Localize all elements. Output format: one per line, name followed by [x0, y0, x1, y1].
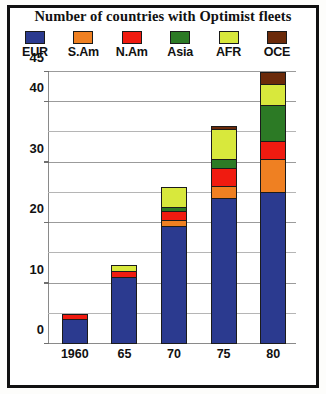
legend-item-afr[interactable]: AFR	[206, 31, 252, 59]
legend-swatch-icon	[73, 31, 93, 44]
plot-area: 01020304045 196065707580	[12, 68, 300, 368]
bar-segment-eur	[63, 320, 87, 343]
y-axis-label: 0	[37, 322, 44, 337]
legend-label: S.Am	[68, 45, 99, 59]
y-axis-label: 40	[30, 80, 44, 95]
x-axis-label: 65	[117, 347, 131, 361]
bar-segment-afr	[162, 188, 186, 208]
legend-label: OCE	[264, 45, 291, 59]
axes: 01020304045 196065707580	[48, 72, 296, 344]
bar-segment-nam	[212, 169, 236, 187]
x-axis-label: 70	[167, 347, 181, 361]
bar-segment-eur	[212, 199, 236, 343]
bar-segment-eur	[162, 227, 186, 343]
y-axis-label: 30	[30, 140, 44, 155]
legend-label: N.Am	[116, 45, 148, 59]
legend-item-oce[interactable]: OCE	[254, 31, 300, 59]
legend-label: Asia	[167, 45, 193, 59]
bar-70[interactable]	[161, 187, 187, 344]
y-axis-label: 20	[30, 201, 44, 216]
bar-segment-eur	[261, 193, 285, 343]
bar-75[interactable]	[211, 126, 237, 344]
y-axis-label: 10	[30, 261, 44, 276]
bar-group	[48, 72, 296, 344]
legend-swatch-icon	[122, 31, 142, 44]
legend-item-sam[interactable]: S.Am	[60, 31, 106, 59]
y-axis-label: 45	[30, 50, 44, 65]
bar-65[interactable]	[111, 265, 137, 344]
bar-segment-sam	[261, 160, 285, 193]
legend-item-nam[interactable]: N.Am	[109, 31, 155, 59]
chart-figure: Number of countries with Optimist fleets…	[0, 0, 326, 394]
x-axis-label: 1960	[61, 347, 89, 361]
bar-segment-oce	[261, 73, 285, 85]
bar-segment-asia	[261, 106, 285, 142]
bar-segment-eur	[112, 278, 136, 343]
bar-segment-afr	[261, 85, 285, 106]
bar-80[interactable]	[260, 72, 286, 344]
bar-segment-sam	[212, 187, 236, 199]
bar-1960[interactable]	[62, 314, 88, 344]
legend-swatch-icon	[219, 31, 239, 44]
chart-title: Number of countries with Optimist fleets	[0, 8, 326, 25]
x-axis-label: 75	[217, 347, 231, 361]
bar-segment-asia	[212, 160, 236, 169]
legend-swatch-icon	[267, 31, 287, 44]
bar-segment-afr	[212, 130, 236, 160]
legend-swatch-icon	[25, 31, 45, 44]
legend-swatch-icon	[170, 31, 190, 44]
x-axis-label: 80	[266, 347, 280, 361]
legend-label: AFR	[216, 45, 241, 59]
bar-segment-nam	[162, 212, 186, 221]
legend-item-asia[interactable]: Asia	[157, 31, 203, 59]
chart-legend: EURS.AmN.AmAsiaAFROCE	[12, 31, 300, 59]
bar-segment-nam	[261, 142, 285, 160]
